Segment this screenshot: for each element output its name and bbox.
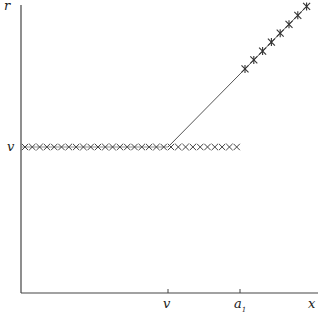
y-axis-label: r (4, 0, 10, 13)
y-tick-label-v: v (7, 139, 14, 154)
x-axis-label: x (308, 296, 315, 311)
plot-canvas (0, 0, 321, 318)
x-tick-label-a1: a1 (234, 296, 246, 314)
x-tick-label-v: v (163, 296, 170, 311)
